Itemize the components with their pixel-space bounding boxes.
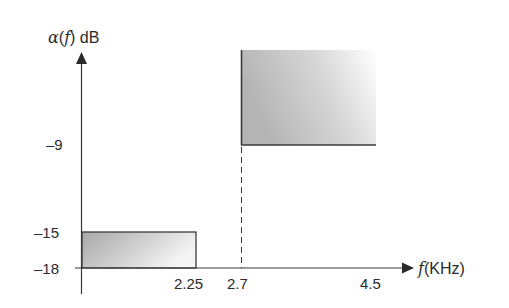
x-tick-2-7: 2.7 — [227, 276, 248, 291]
x-tick-4-5: 4.5 — [360, 276, 381, 291]
stopband-region — [242, 50, 376, 145]
x-tick-2-25: 2.25 — [174, 276, 203, 291]
y-tick-minus-18: –18 — [34, 261, 59, 276]
y-axis-label: α(f) dB — [48, 30, 99, 46]
x-axis-label: f(KHz) — [418, 261, 465, 277]
passband-region — [82, 232, 196, 268]
x-axis-arrow-icon — [402, 263, 414, 274]
y-tick-minus-9: –9 — [46, 137, 63, 152]
y-tick-minus-15: –15 — [34, 225, 59, 240]
y-axis-alpha: α — [48, 28, 59, 47]
y-axis-arrow-icon — [76, 52, 87, 64]
